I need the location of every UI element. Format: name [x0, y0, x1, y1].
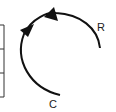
- side-box: [0, 25, 4, 97]
- arrowhead-icon: [20, 24, 34, 37]
- diagram-canvas: [0, 0, 116, 112]
- label-c: C: [49, 99, 57, 110]
- label-r: R: [97, 22, 105, 33]
